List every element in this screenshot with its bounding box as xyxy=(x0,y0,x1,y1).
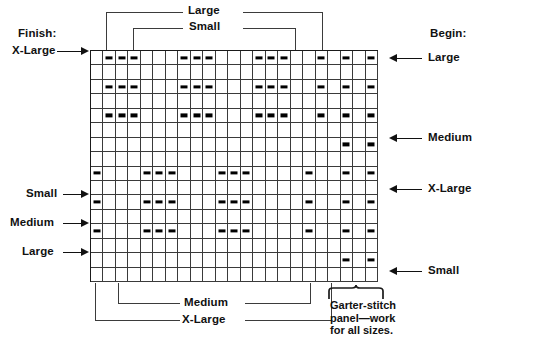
chart-cell-knit[interactable] xyxy=(216,80,228,94)
chart-cell-knit[interactable] xyxy=(128,195,140,209)
chart-cell-knit[interactable] xyxy=(228,65,240,79)
chart-cell-knit[interactable] xyxy=(353,109,365,123)
chart-cell-knit[interactable] xyxy=(353,239,365,253)
chart-cell-knit[interactable] xyxy=(328,181,340,195)
chart-cell-knit[interactable] xyxy=(328,195,340,209)
chart-cell-purl[interactable] xyxy=(341,109,353,123)
chart-cell-knit[interactable] xyxy=(178,224,190,238)
chart-cell-knit[interactable] xyxy=(316,138,328,152)
chart-cell-purl[interactable] xyxy=(216,195,228,209)
chart-cell-knit[interactable] xyxy=(153,80,165,94)
chart-cell-knit[interactable] xyxy=(228,268,240,282)
chart-cell-knit[interactable] xyxy=(128,152,140,166)
chart-cell-knit[interactable] xyxy=(191,123,203,137)
chart-cell-knit[interactable] xyxy=(191,152,203,166)
chart-cell-knit[interactable] xyxy=(253,65,265,79)
chart-cell-purl[interactable] xyxy=(341,167,353,181)
chart-cell-purl[interactable] xyxy=(103,109,115,123)
chart-cell-knit[interactable] xyxy=(303,152,315,166)
chart-cell-knit[interactable] xyxy=(141,80,153,94)
chart-cell-knit[interactable] xyxy=(153,138,165,152)
chart-cell-knit[interactable] xyxy=(191,224,203,238)
chart-cell-knit[interactable] xyxy=(266,210,278,224)
chart-cell-purl[interactable] xyxy=(366,51,378,65)
chart-cell-knit[interactable] xyxy=(191,268,203,282)
chart-cell-knit[interactable] xyxy=(153,152,165,166)
chart-cell-knit[interactable] xyxy=(266,152,278,166)
chart-cell-knit[interactable] xyxy=(241,109,253,123)
chart-cell-knit[interactable] xyxy=(228,253,240,267)
chart-cell-knit[interactable] xyxy=(178,123,190,137)
chart-cell-purl[interactable] xyxy=(216,224,228,238)
chart-cell-purl[interactable] xyxy=(303,195,315,209)
chart-cell-knit[interactable] xyxy=(278,138,290,152)
chart-cell-knit[interactable] xyxy=(253,123,265,137)
chart-cell-knit[interactable] xyxy=(316,94,328,108)
chart-cell-knit[interactable] xyxy=(266,181,278,195)
chart-cell-knit[interactable] xyxy=(116,65,128,79)
chart-cell-knit[interactable] xyxy=(328,167,340,181)
chart-cell-knit[interactable] xyxy=(228,152,240,166)
chart-cell-knit[interactable] xyxy=(116,167,128,181)
chart-cell-knit[interactable] xyxy=(178,167,190,181)
chart-cell-knit[interactable] xyxy=(191,210,203,224)
chart-cell-knit[interactable] xyxy=(266,224,278,238)
chart-cell-knit[interactable] xyxy=(166,239,178,253)
chart-cell-knit[interactable] xyxy=(91,152,103,166)
chart-cell-purl[interactable] xyxy=(341,195,353,209)
chart-cell-knit[interactable] xyxy=(366,94,378,108)
chart-cell-knit[interactable] xyxy=(341,210,353,224)
chart-cell-knit[interactable] xyxy=(316,167,328,181)
chart-cell-knit[interactable] xyxy=(291,210,303,224)
chart-cell-knit[interactable] xyxy=(291,94,303,108)
chart-cell-knit[interactable] xyxy=(91,210,103,224)
chart-cell-purl[interactable] xyxy=(303,224,315,238)
chart-cell-knit[interactable] xyxy=(341,152,353,166)
chart-cell-knit[interactable] xyxy=(291,195,303,209)
chart-cell-knit[interactable] xyxy=(153,51,165,65)
chart-cell-knit[interactable] xyxy=(103,253,115,267)
chart-cell-knit[interactable] xyxy=(278,268,290,282)
chart-cell-purl[interactable] xyxy=(316,109,328,123)
chart-cell-knit[interactable] xyxy=(328,224,340,238)
chart-cell-knit[interactable] xyxy=(266,239,278,253)
chart-cell-knit[interactable] xyxy=(353,80,365,94)
chart-cell-knit[interactable] xyxy=(278,167,290,181)
chart-cell-knit[interactable] xyxy=(166,253,178,267)
chart-cell-knit[interactable] xyxy=(291,253,303,267)
chart-cell-purl[interactable] xyxy=(128,80,140,94)
chart-cell-knit[interactable] xyxy=(128,224,140,238)
chart-cell-purl[interactable] xyxy=(178,109,190,123)
chart-cell-knit[interactable] xyxy=(253,138,265,152)
chart-cell-purl[interactable] xyxy=(241,195,253,209)
chart-cell-knit[interactable] xyxy=(291,80,303,94)
chart-cell-knit[interactable] xyxy=(266,268,278,282)
chart-cell-knit[interactable] xyxy=(241,51,253,65)
chart-cell-knit[interactable] xyxy=(141,123,153,137)
chart-cell-knit[interactable] xyxy=(266,65,278,79)
chart-cell-purl[interactable] xyxy=(266,109,278,123)
chart-cell-knit[interactable] xyxy=(291,224,303,238)
chart-cell-knit[interactable] xyxy=(203,195,215,209)
chart-cell-purl[interactable] xyxy=(116,51,128,65)
chart-cell-knit[interactable] xyxy=(178,152,190,166)
chart-cell-purl[interactable] xyxy=(166,195,178,209)
chart-cell-knit[interactable] xyxy=(291,65,303,79)
chart-cell-knit[interactable] xyxy=(141,253,153,267)
chart-cell-knit[interactable] xyxy=(366,268,378,282)
chart-cell-purl[interactable] xyxy=(153,195,165,209)
chart-cell-knit[interactable] xyxy=(91,123,103,137)
chart-cell-knit[interactable] xyxy=(291,138,303,152)
chart-cell-knit[interactable] xyxy=(303,181,315,195)
chart-cell-knit[interactable] xyxy=(153,65,165,79)
chart-cell-knit[interactable] xyxy=(191,167,203,181)
chart-cell-knit[interactable] xyxy=(303,94,315,108)
chart-cell-purl[interactable] xyxy=(341,51,353,65)
chart-cell-knit[interactable] xyxy=(316,210,328,224)
chart-cell-knit[interactable] xyxy=(253,167,265,181)
chart-cell-knit[interactable] xyxy=(153,268,165,282)
chart-cell-purl[interactable] xyxy=(303,167,315,181)
chart-cell-knit[interactable] xyxy=(166,65,178,79)
chart-cell-knit[interactable] xyxy=(91,253,103,267)
chart-cell-knit[interactable] xyxy=(103,152,115,166)
